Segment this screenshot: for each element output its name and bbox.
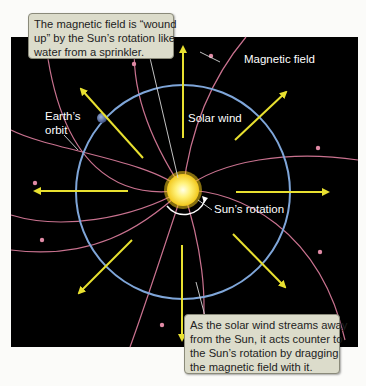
callout-top-line-2: up” by the Sun’s rotation like bbox=[34, 31, 168, 45]
suns-rotation-label: Sun’s rotation bbox=[214, 203, 284, 216]
earth-icon bbox=[97, 113, 107, 123]
earths-orbit-label-line2: orbit bbox=[45, 124, 67, 137]
magnetic-field-label: Magnetic field bbox=[244, 53, 315, 66]
callout-bottom-line-1: As the solar wind streams away bbox=[190, 318, 334, 332]
sun-icon bbox=[164, 171, 202, 209]
callout-bottom-line-3: the Sun’s rotation by dragging bbox=[190, 346, 334, 360]
callout-top-line-3: water from a sprinkler. bbox=[34, 45, 168, 59]
earths-orbit-label-line1: Earth’s bbox=[45, 110, 81, 123]
callout-solar-wind-drag: As the solar wind streams away from the … bbox=[184, 314, 340, 374]
callout-bottom-line-4: the magnetic field with it. bbox=[190, 360, 334, 374]
callout-bottom-line-2: from the Sun, it acts counter to bbox=[190, 332, 334, 346]
callout-top-line-1: The magnetic field is “wound bbox=[34, 17, 168, 31]
callout-wound-up: The magnetic field is “wound up” by the … bbox=[28, 13, 174, 59]
solar-wind-label: Solar wind bbox=[188, 112, 242, 125]
